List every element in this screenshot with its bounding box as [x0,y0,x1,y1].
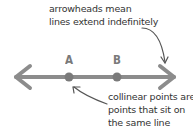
line-with-arrowheads [16,66,174,88]
point-a-label: A [65,52,73,67]
bottom-note-line-1: collinear points are [108,91,193,104]
point-b-dot [113,73,122,82]
bottom-curved-arrow-icon [74,87,107,104]
bottom-note-line-3: the same line [108,117,170,130]
point-a-dot [65,73,74,82]
top-note-line-2: lines extend indefinitely [49,16,158,29]
bottom-note-line-2: points that sit on [108,104,185,117]
point-b-label: B [113,52,121,67]
top-note-line-1: arrowheads mean [49,3,131,16]
